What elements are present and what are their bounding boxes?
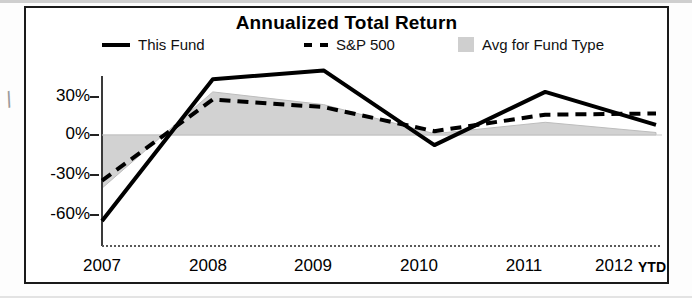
x-tick-label-2007: 2007 (72, 256, 132, 276)
y-tick-label-0: 0% (28, 124, 90, 144)
y-tick-mark-30 (90, 96, 99, 98)
y-tick-label-30: 30% (28, 86, 90, 106)
chart-plot-area: 30% 0% -30% -60% 2007 2008 2009 2010 201… (26, 8, 671, 286)
x-tick-label-2009: 2009 (283, 256, 343, 276)
scan-artifact-mark: / (2, 84, 23, 113)
y-tick-label-neg60: -60% (28, 204, 90, 224)
y-tick-label-neg30: -30% (28, 164, 90, 184)
y-axis-labels: 30% 0% -30% -60% (26, 8, 671, 286)
screenshot-root: / Annualized Total Return This Fund S&P … (0, 0, 692, 298)
x-tick-label-2012: 2012 (584, 256, 644, 276)
y-tick-mark-neg60 (90, 214, 99, 216)
y-tick-mark-neg30 (90, 174, 99, 176)
chart-card: Annualized Total Return This Fund S&P 50… (24, 6, 669, 284)
x-tick-label-2010: 2010 (389, 256, 449, 276)
x-tick-label-2008: 2008 (178, 256, 238, 276)
y-tick-mark-0 (90, 134, 99, 136)
x-axis-ytd-label: YTD (638, 259, 666, 275)
x-tick-label-2011: 2011 (494, 256, 554, 276)
scan-edge-top (0, 0, 692, 3)
